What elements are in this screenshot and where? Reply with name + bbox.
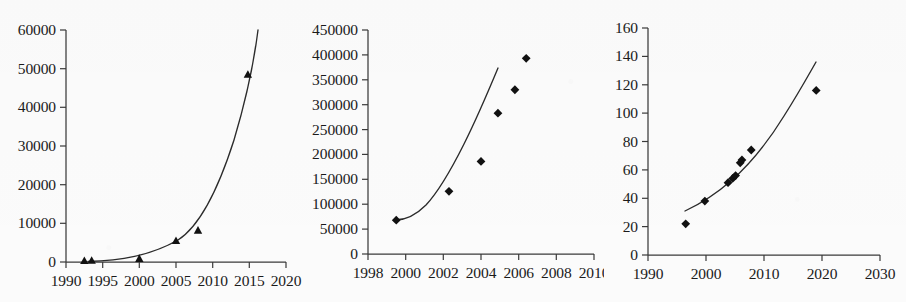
panel-b-svg: 450000 400000 350000 300000 250000 20000… <box>302 0 604 302</box>
data-point-marker <box>812 86 821 95</box>
x-tick-label: 1990 <box>633 265 664 282</box>
x-tick-label: 2000 <box>691 265 722 282</box>
data-point-marker <box>445 187 454 196</box>
panel-b-data-points <box>392 54 531 225</box>
y-tick-label: 0 <box>48 253 56 270</box>
y-tick-marks <box>362 30 368 254</box>
y-tick-label: 150000 <box>312 170 358 187</box>
y-tick-label: 140 <box>615 47 638 64</box>
x-tick-label: 1990 <box>51 272 82 289</box>
data-point-marker <box>80 256 88 264</box>
y-tick-label: 160 <box>615 19 638 36</box>
data-point-marker <box>392 216 401 225</box>
x-tick-marks <box>648 255 880 261</box>
data-point-marker <box>747 146 756 155</box>
x-tick-label: 2000 <box>390 264 421 281</box>
x-tick-label: 2004 <box>466 264 497 281</box>
y-tick-label: 40 <box>623 189 639 206</box>
y-tick-label: 50000 <box>320 220 359 237</box>
chart-panel-b: 450000 400000 350000 300000 250000 20000… <box>302 0 604 302</box>
data-point-marker <box>511 85 520 94</box>
x-tick-label: 1995 <box>87 272 118 289</box>
x-tick-marks <box>66 262 286 268</box>
data-point-marker <box>87 256 95 264</box>
y-tick-label: 250000 <box>312 121 358 138</box>
panel-a-data-points <box>80 70 252 264</box>
x-tick-label: 2000 <box>124 272 155 289</box>
y-tick-label: 0 <box>350 245 358 262</box>
y-tick-marks <box>642 28 648 255</box>
x-tick-label: 2002 <box>428 264 459 281</box>
x-tick-label: 2010 <box>749 265 780 282</box>
x-tick-label: 2008 <box>541 264 572 281</box>
data-point-marker <box>494 109 503 118</box>
x-tick-label: 2005 <box>161 272 192 289</box>
x-tick-label: 2030 <box>865 265 896 282</box>
panel-c-data-points <box>681 86 820 228</box>
y-tick-label: 100 <box>615 104 638 121</box>
panel-b-yaxis: 450000 400000 350000 300000 250000 20000… <box>312 21 368 262</box>
y-tick-label: 100000 <box>312 195 358 212</box>
data-point-marker <box>194 226 202 234</box>
y-tick-label: 400000 <box>312 46 358 63</box>
data-point-marker <box>681 219 690 228</box>
y-tick-label: 200000 <box>312 145 358 162</box>
y-tick-marks <box>60 30 66 262</box>
x-tick-label: 2010 <box>197 272 228 289</box>
panel-b-xaxis: 1998 2000 2002 2004 2006 2008 2010 <box>353 254 604 281</box>
data-point-marker <box>172 237 180 245</box>
panel-c-fit-curve <box>685 62 816 211</box>
x-tick-label: 2020 <box>271 272 302 289</box>
y-tick-label: 0 <box>630 246 638 263</box>
y-tick-label: 20 <box>623 218 639 235</box>
x-tick-label: 2020 <box>807 265 838 282</box>
three-panel-figure: 60000 50000 40000 30000 20000 10000 0 <box>0 0 906 302</box>
y-tick-label: 80 <box>623 133 639 150</box>
panel-a-svg: 60000 50000 40000 30000 20000 10000 0 <box>0 0 302 302</box>
y-tick-label: 60 <box>623 161 639 178</box>
x-tick-label: 2010 <box>579 264 604 281</box>
panel-a-fit-curve <box>88 30 258 262</box>
y-tick-label: 50000 <box>18 60 57 77</box>
x-tick-marks <box>368 254 594 260</box>
y-tick-label: 60000 <box>18 21 57 38</box>
data-point-marker <box>522 54 531 63</box>
chart-panel-c: 160 140 120 100 80 60 40 20 0 1 <box>604 0 906 302</box>
panel-c-yaxis: 160 140 120 100 80 60 40 20 0 <box>615 19 648 263</box>
panel-b-fit-curve <box>394 68 498 220</box>
y-tick-label: 120 <box>615 76 638 93</box>
x-tick-label: 2006 <box>503 264 534 281</box>
x-tick-label: 2015 <box>234 272 265 289</box>
y-tick-label: 40000 <box>18 98 57 115</box>
y-tick-label: 350000 <box>312 71 358 88</box>
panel-c-svg: 160 140 120 100 80 60 40 20 0 1 <box>604 0 906 302</box>
panel-a-xaxis: 1990 1995 2000 2005 2010 2015 2020 <box>51 262 302 289</box>
y-tick-label: 30000 <box>18 137 57 154</box>
y-tick-label: 20000 <box>18 176 57 193</box>
chart-panel-a: 60000 50000 40000 30000 20000 10000 0 <box>0 0 302 302</box>
y-tick-label: 300000 <box>312 96 358 113</box>
x-tick-label: 1998 <box>353 264 384 281</box>
y-tick-label: 10000 <box>18 214 57 231</box>
y-tick-label: 450000 <box>312 21 358 38</box>
panel-a-yaxis: 60000 50000 40000 30000 20000 10000 0 <box>18 21 66 270</box>
panel-c-xaxis: 1990 2000 2010 2020 2030 <box>633 255 896 282</box>
data-point-marker <box>477 157 486 166</box>
